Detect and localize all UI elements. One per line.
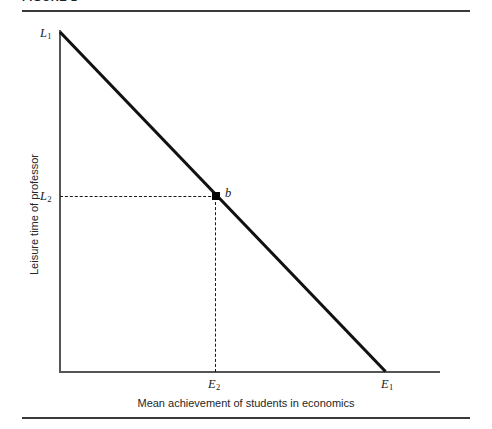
x-tick-label-E2: E2 [208,377,220,392]
data-point-marker-b [212,192,220,200]
guide-line-horizontal [60,196,216,197]
label-L1-base: L [40,26,47,40]
y-axis-title: Leisure time of professor [28,0,40,429]
y-tick-label-L1: L1 [40,26,52,41]
figure-panel: FIGURE 1 L1 L2 E2 E1 b Mean achievement … [0,0,492,429]
label-L2-subscript: 2 [47,194,52,204]
tradeoff-line [0,0,492,429]
label-E1-subscript: 1 [389,382,394,392]
guide-line-vertical [215,197,216,372]
label-E2-base: E [208,377,216,391]
y-tick-label-L2: L2 [40,189,52,204]
chart-plot-area: L1 L2 E2 E1 b Mean achievement of studen… [0,0,492,429]
point-label-b: b [225,186,231,201]
y-axis-title-wrapper: Leisure time of professor [14,0,34,429]
label-L1-subscript: 1 [47,31,52,41]
label-E2-subscript: 2 [216,382,221,392]
x-tick-label-E1: E1 [381,377,393,392]
label-E1-base: E [381,377,389,391]
bottom-divider-rule [22,417,470,419]
y-axis-title-rotator: Leisure time of professor [14,0,34,429]
x-axis-title: Mean achievement of students in economic… [0,397,492,409]
label-L2-base: L [40,189,47,203]
